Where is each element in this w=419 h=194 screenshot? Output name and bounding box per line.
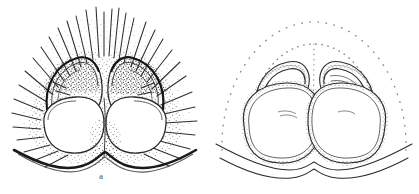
figure-panel-b: b <box>210 0 419 194</box>
panel-label-a: a <box>99 172 103 181</box>
panel-b-artwork <box>210 0 419 194</box>
panel-a-drawing <box>0 0 210 194</box>
right-spermatheca-wall <box>210 0 419 194</box>
panel-a-artwork <box>0 0 210 194</box>
panel-b-drawing <box>210 0 419 194</box>
figure-plate: a <box>0 0 419 194</box>
figure-panel-a: a <box>0 0 210 194</box>
